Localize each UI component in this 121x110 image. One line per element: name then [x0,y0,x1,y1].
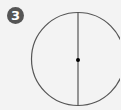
circle-outline [32,13,121,106]
circle-diagram [0,0,120,110]
center-point [76,58,80,62]
